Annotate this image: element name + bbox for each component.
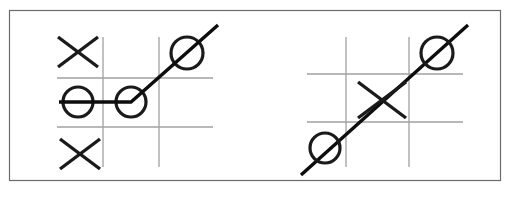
- figure-root: [0, 0, 510, 200]
- tictactoe-figure: [0, 0, 510, 200]
- mark-o-cell-2-0: [310, 133, 340, 163]
- mark-x-cell-1-1: [358, 82, 406, 118]
- mark-x-cell-0-0: [58, 37, 98, 67]
- left-board: [57, 25, 218, 169]
- mark-x-cell-2-0: [60, 139, 100, 169]
- right-board: [301, 25, 468, 175]
